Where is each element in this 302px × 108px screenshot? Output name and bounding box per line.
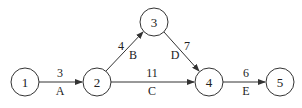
edge-2-3 (106, 32, 143, 71)
edge-1-2-duration: 3 (57, 66, 63, 80)
edge-3-4-duration: 7 (184, 39, 190, 53)
edge-3-4 (164, 32, 199, 71)
node-2: 2 (83, 68, 111, 96)
edge-3-4-activity: D (171, 48, 180, 62)
node-5-label: 5 (277, 75, 284, 90)
node-4-label: 4 (206, 75, 213, 90)
node-1-label: 1 (22, 75, 29, 90)
edge-4-5-duration: 6 (243, 66, 249, 80)
diagram-svg: 3 A 4 B 11 C 7 D 6 E 1 2 3 4 5 (0, 0, 302, 108)
node-3-label: 3 (151, 15, 158, 30)
node-3: 3 (140, 8, 168, 36)
edge-2-4-activity: C (148, 84, 156, 98)
node-2-label: 2 (94, 75, 101, 90)
network-diagram: 3 A 4 B 11 C 7 D 6 E 1 2 3 4 5 (0, 0, 302, 108)
edge-4-5-activity: E (242, 84, 249, 98)
node-4: 4 (195, 68, 223, 96)
edge-1-2-activity: A (56, 84, 65, 98)
node-1: 1 (11, 68, 39, 96)
edge-2-3-activity: B (129, 48, 137, 62)
edge-2-3-duration: 4 (118, 39, 124, 53)
edge-2-4-duration: 11 (146, 66, 158, 80)
node-5: 5 (266, 68, 294, 96)
